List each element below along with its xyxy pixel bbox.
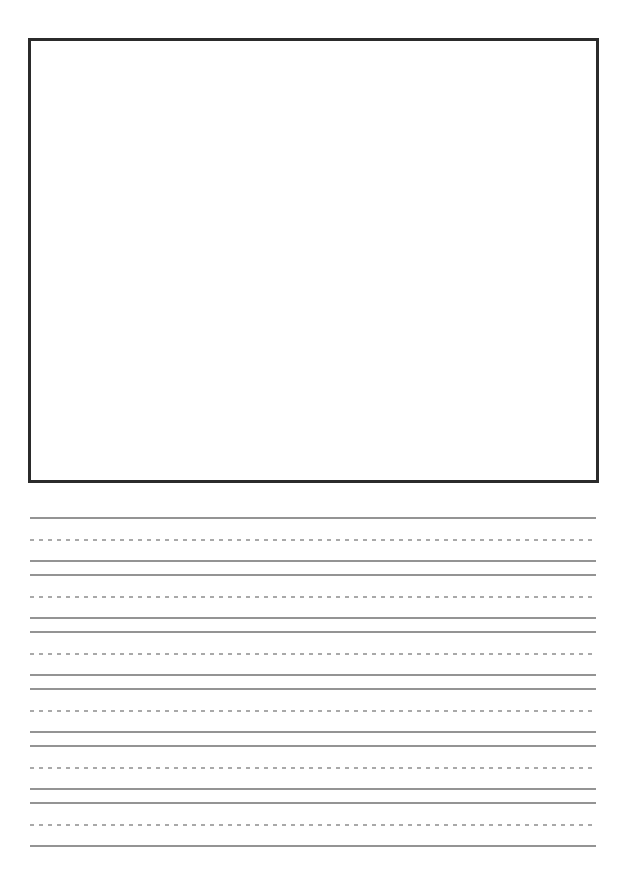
writing-lines-area bbox=[30, 517, 596, 859]
handwriting-dashed-midline bbox=[30, 596, 596, 598]
handwriting-baseline bbox=[30, 560, 596, 562]
handwriting-dashed-midline bbox=[30, 824, 596, 826]
writing-row bbox=[30, 517, 596, 562]
handwriting-top-line bbox=[30, 574, 596, 576]
handwriting-dashed-midline bbox=[30, 710, 596, 712]
handwriting-baseline bbox=[30, 731, 596, 733]
handwriting-baseline bbox=[30, 845, 596, 847]
handwriting-baseline bbox=[30, 617, 596, 619]
handwriting-top-line bbox=[30, 802, 596, 804]
handwriting-baseline bbox=[30, 674, 596, 676]
worksheet-page bbox=[0, 0, 625, 885]
handwriting-top-line bbox=[30, 631, 596, 633]
handwriting-dashed-midline bbox=[30, 539, 596, 541]
handwriting-top-line bbox=[30, 745, 596, 747]
writing-row bbox=[30, 802, 596, 847]
handwriting-dashed-midline bbox=[30, 767, 596, 769]
handwriting-top-line bbox=[30, 688, 596, 690]
writing-row bbox=[30, 688, 596, 733]
drawing-box bbox=[28, 38, 599, 483]
writing-row bbox=[30, 745, 596, 790]
handwriting-top-line bbox=[30, 517, 596, 519]
writing-row bbox=[30, 631, 596, 676]
handwriting-baseline bbox=[30, 788, 596, 790]
writing-row bbox=[30, 574, 596, 619]
handwriting-dashed-midline bbox=[30, 653, 596, 655]
